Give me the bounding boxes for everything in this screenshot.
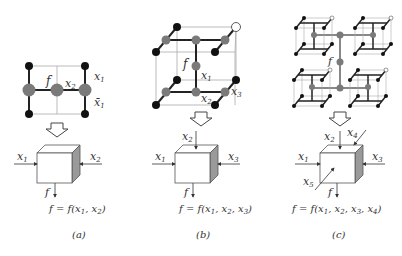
caption-c: (c) xyxy=(332,229,346,240)
input-x3: x3 xyxy=(372,150,383,164)
panel-c: f xyxy=(291,16,393,240)
input-x1: x1 xyxy=(298,150,309,164)
input-x3: x3 xyxy=(228,150,239,164)
down-arrow-icon xyxy=(329,112,351,126)
output-f: f xyxy=(44,186,51,199)
caption-a: (a) xyxy=(72,229,86,240)
function-box: x1 x2 f xyxy=(14,145,102,199)
input-x4: x4 xyxy=(347,126,358,140)
input-x1: x1 xyxy=(155,150,166,164)
input-x2: x2 xyxy=(182,130,193,144)
label-x2: x2 xyxy=(65,77,76,91)
lattice-3d: f x1 x2 x3 xyxy=(152,23,242,110)
lattice-4d: f xyxy=(292,16,393,108)
label-f: f xyxy=(182,57,190,71)
diagram-canvas: f x2 x1 x̄1 x1 x2 f f = f(x1, x2) (a) xyxy=(0,0,402,256)
input-x1: x1 xyxy=(17,150,28,164)
down-arrow-icon xyxy=(190,112,212,126)
input-x5: x5 xyxy=(303,175,314,189)
down-arrow-icon xyxy=(46,123,68,137)
equation-c: f = f(x1, x2, x3, x4) xyxy=(291,203,382,216)
label-x1: x1 xyxy=(201,69,212,83)
label-f: f xyxy=(327,55,334,68)
label-x1bar: x̄1 xyxy=(94,96,105,110)
caption-b: (b) xyxy=(196,229,210,240)
input-x2: x2 xyxy=(90,150,101,164)
output-f: f xyxy=(327,186,334,199)
equation-a: f = f(x1, x2) xyxy=(48,203,106,216)
label-x1: x1 xyxy=(94,70,105,84)
function-box: x1 x2 x3 x4 x5 f xyxy=(295,126,385,199)
output-f: f xyxy=(183,186,190,199)
label-x2: x2 xyxy=(201,92,212,106)
panel-a: f x2 x1 x̄1 x1 x2 f f = f(x1, x2) (a) xyxy=(14,62,106,240)
panel-b: f x1 x2 x3 x1 x2 x3 f f = f(x1, x2, x3) … xyxy=(152,23,252,241)
lattice-2d: f x2 x1 x̄1 xyxy=(23,62,105,118)
equation-b: f = f(x1, x2, x3) xyxy=(178,203,252,216)
label-x3: x3 xyxy=(231,85,242,99)
label-f: f xyxy=(45,74,53,88)
function-box: x1 x2 x3 f xyxy=(152,130,240,199)
input-x2: x2 xyxy=(324,130,335,144)
